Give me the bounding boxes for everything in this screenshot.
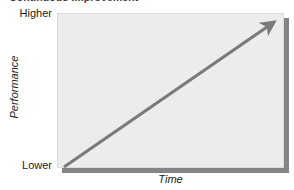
y-axis-label-lower: Lower	[0, 159, 52, 171]
chart-figure: Continuous Improvement Higher Lower Perf…	[0, 0, 294, 190]
y-axis-title: Performance	[8, 35, 20, 139]
x-axis-title: Time	[57, 173, 284, 185]
trend-arrow-icon	[57, 13, 284, 168]
y-axis-label-higher: Higher	[0, 7, 52, 19]
chart-title: Continuous Improvement	[9, 0, 138, 3]
